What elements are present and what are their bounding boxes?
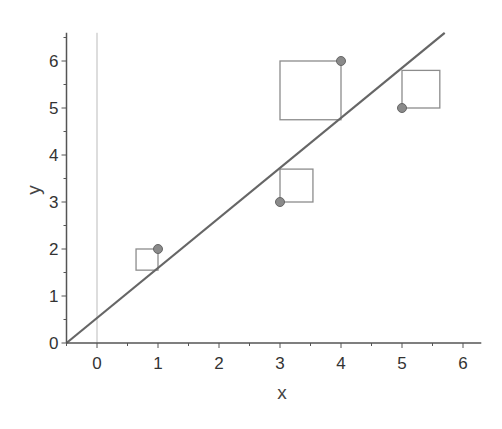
y-axis-label: y [23, 185, 44, 195]
x-tick-label: 0 [92, 354, 101, 373]
x-tick-label: 2 [214, 354, 223, 373]
x-tick-label: 4 [336, 354, 345, 373]
regression-line [67, 33, 445, 343]
residual-square [280, 61, 341, 120]
x-axis-label: x [277, 382, 287, 403]
residual-square [280, 169, 313, 202]
x-tick-label: 6 [458, 354, 467, 373]
data-point [337, 57, 346, 66]
y-tick-label: 2 [49, 240, 58, 259]
residual-scatter-chart: 0123456 0123456 x y [0, 0, 502, 429]
data-point [398, 104, 407, 113]
residual-square [402, 70, 440, 108]
y-axis-ticks: 0123456 [49, 38, 66, 354]
y-tick-label: 0 [49, 334, 58, 353]
data-point [154, 245, 163, 254]
x-tick-label: 5 [397, 354, 406, 373]
x-tick-label: 1 [153, 354, 162, 373]
y-tick-label: 3 [49, 193, 58, 212]
axes [67, 33, 482, 343]
data-point [276, 198, 285, 207]
fit-line [67, 33, 445, 343]
x-tick-label: 3 [275, 354, 284, 373]
x-axis-ticks: 0123456 [67, 343, 468, 373]
y-tick-label: 4 [49, 146, 58, 165]
y-tick-label: 5 [49, 99, 58, 118]
y-tick-label: 1 [49, 287, 58, 306]
residual-squares [136, 61, 440, 270]
y-tick-label: 6 [49, 52, 58, 71]
